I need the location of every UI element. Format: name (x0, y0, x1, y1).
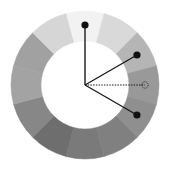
base-color-marker-icon (81, 21, 88, 28)
split-complement-2-marker-icon (133, 111, 140, 118)
color-wheel-diagram (0, 0, 170, 169)
split-complement-1-marker-icon (133, 51, 140, 58)
